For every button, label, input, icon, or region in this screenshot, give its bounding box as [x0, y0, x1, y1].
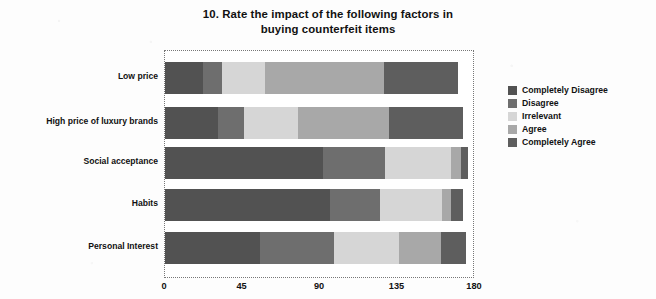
chart-title-line-2: buying counterfeit items	[0, 22, 656, 37]
legend-label: Agree	[522, 125, 547, 134]
chart-legend: Completely DisagreeDisagreeIrrelevantAgr…	[508, 85, 608, 150]
legend-label: Disagree	[522, 99, 559, 108]
bar-segment	[451, 189, 463, 221]
bar-segment	[165, 189, 330, 221]
bar-segment	[442, 189, 451, 221]
bar-segment	[165, 147, 323, 179]
y-axis-label-5: Personal Interest	[0, 241, 158, 251]
y-axis-label-3: Social acceptance	[0, 156, 158, 166]
x-tick-90: 90	[314, 281, 324, 291]
bar-segment	[218, 107, 244, 139]
bar-segment	[334, 232, 399, 264]
legend-item-4[interactable]: Agree	[508, 124, 608, 136]
bar-segment	[323, 147, 385, 179]
plot-area	[164, 50, 474, 278]
y-axis-label-4: Habits	[0, 198, 158, 208]
x-tick-135: 135	[389, 281, 404, 291]
chart-title: 10. Rate the impact of the following fac…	[0, 7, 656, 36]
bars-layer	[165, 51, 473, 277]
legend-label: Irrelevant	[522, 112, 561, 121]
bar-segment	[260, 232, 334, 264]
bar-segment	[380, 189, 442, 221]
legend-swatch-icon	[508, 99, 517, 108]
bar-segment	[298, 107, 389, 139]
legend-item-2[interactable]: Disagree	[508, 98, 608, 110]
legend-item-5[interactable]: Completely Agree	[508, 137, 608, 149]
legend-label: Completely Agree	[522, 138, 596, 147]
legend-item-1[interactable]: Completely Disagree	[508, 85, 608, 97]
bar-segment	[165, 62, 203, 94]
bar-segment	[203, 62, 222, 94]
legend-item-3[interactable]: Irrelevant	[508, 111, 608, 123]
bar-segment	[165, 232, 260, 264]
bar-segment	[222, 62, 265, 94]
bar-segment	[385, 147, 450, 179]
bar-segment	[165, 107, 218, 139]
bar-segment	[461, 147, 468, 179]
bar-segment	[451, 147, 461, 179]
bar-segment	[399, 232, 440, 264]
chart-page: 10. Rate the impact of the following fac…	[0, 0, 656, 299]
y-axis-label-1: Low price	[0, 71, 158, 81]
legend-swatch-icon	[508, 138, 517, 147]
bar-segment	[330, 189, 380, 221]
bar-segment	[265, 62, 384, 94]
bar-segment	[441, 232, 467, 264]
legend-swatch-icon	[508, 86, 517, 95]
legend-label: Completely Disagree	[522, 86, 608, 95]
bar-segment	[389, 107, 463, 139]
bar-segment	[384, 62, 458, 94]
chart-title-line-1: 10. Rate the impact of the following fac…	[0, 7, 656, 22]
x-tick-45: 45	[236, 281, 246, 291]
x-tick-180: 180	[466, 281, 481, 291]
y-axis-label-2: High price of luxury brands	[0, 116, 158, 126]
x-tick-0: 0	[161, 281, 166, 291]
bar-segment	[244, 107, 297, 139]
legend-swatch-icon	[508, 125, 517, 134]
legend-swatch-icon	[508, 112, 517, 121]
